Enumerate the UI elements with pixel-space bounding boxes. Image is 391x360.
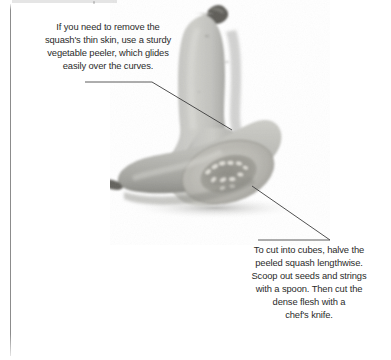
- caption-cubes: To cut into cubes, halve the peeled squa…: [230, 243, 388, 322]
- scan-artifact-speck: [93, 1, 95, 4]
- pointer-line-peeler: [152, 82, 232, 130]
- scan-artifact-top-band: [12, 0, 117, 3]
- leader-line-peeler: [80, 78, 240, 138]
- caption-peeler: If you need to remove the squash's thin …: [22, 20, 194, 72]
- left-margin-rule: [10, 4, 11, 356]
- pointer-line-cubes: [252, 186, 330, 240]
- cookbook-page: If you need to remove the squash's thin …: [0, 0, 391, 360]
- leader-line-cubes: [250, 184, 345, 246]
